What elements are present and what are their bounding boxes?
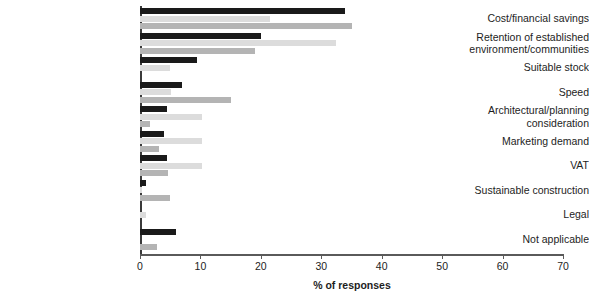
bar-g3-s1 [140, 89, 171, 95]
bar-g5-s2 [140, 146, 159, 152]
bar-g6-s2 [140, 170, 168, 176]
x-tick-0 [140, 254, 141, 259]
bar-g1-s0 [140, 33, 261, 39]
bar-g7-s0 [140, 180, 146, 186]
bar-g0-s0 [140, 8, 345, 14]
x-tick-40 [382, 254, 383, 259]
x-tick-10 [200, 254, 201, 259]
bar-g5-s0 [140, 131, 164, 137]
plot-area [140, 6, 563, 252]
bar-g7-s2 [140, 195, 170, 201]
x-tick-label-50: 50 [436, 260, 448, 272]
bar-g0-s2 [140, 23, 352, 29]
bar-g4-s0 [140, 106, 167, 112]
x-tick-20 [261, 254, 262, 259]
x-tick-70 [563, 254, 564, 259]
bar-g9-s2 [140, 244, 157, 250]
x-tick-label-10: 10 [195, 260, 207, 272]
x-tick-50 [442, 254, 443, 259]
bar-g3-s2 [140, 97, 231, 103]
x-tick-label-0: 0 [137, 260, 143, 272]
x-tick-60 [503, 254, 504, 259]
bar-g4-s2 [140, 121, 150, 127]
bar-g2-s0 [140, 57, 197, 63]
bar-g5-s1 [140, 138, 202, 144]
bar-g7-s1 [140, 187, 142, 193]
bar-g4-s1 [140, 114, 202, 120]
bar-g1-s1 [140, 40, 336, 46]
bar-g3-s0 [140, 82, 182, 88]
bar-chart: 010203040506070 Cost/financial savingsRe… [0, 0, 589, 301]
x-tick-30 [321, 254, 322, 259]
bar-g6-s1 [140, 163, 202, 169]
x-axis-line [140, 254, 564, 256]
bar-g8-s1 [140, 212, 146, 218]
x-tick-label-30: 30 [315, 260, 327, 272]
bar-g6-s0 [140, 155, 167, 161]
bar-g9-s0 [140, 229, 176, 235]
x-tick-label-40: 40 [376, 260, 388, 272]
x-tick-label-60: 60 [497, 260, 509, 272]
bar-g0-s1 [140, 16, 270, 22]
x-tick-label-70: 70 [557, 260, 569, 272]
x-tick-label-20: 20 [255, 260, 267, 272]
bar-g1-s2 [140, 48, 255, 54]
x-axis-label: % of responses [140, 279, 564, 291]
bar-g2-s1 [140, 65, 170, 71]
